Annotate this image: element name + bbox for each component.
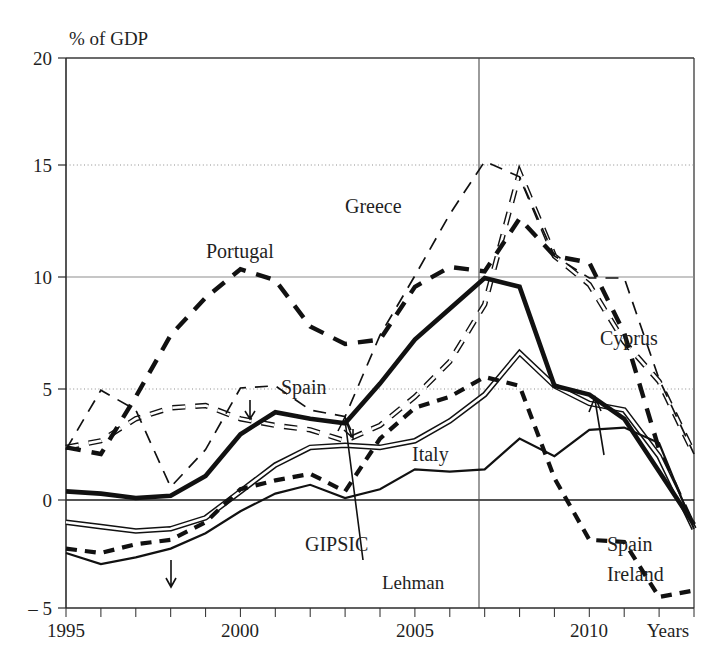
line-chart: 20 15 10 5 0 – 5 1995 2000 2005 2010 Yea… <box>0 0 708 666</box>
y-axis-title: % of GDP <box>69 28 148 49</box>
ytick-label-20: 20 <box>33 48 52 69</box>
series-label-gipsic: GIPSIC <box>305 533 368 555</box>
series-label-ireland: Ireland <box>607 563 664 585</box>
series-label-greece: Greece <box>345 195 402 217</box>
xtick-label-2000: 2000 <box>221 620 259 641</box>
series-label-italy: Italy <box>412 443 449 466</box>
ytick-label-0: 0 <box>43 490 53 511</box>
chart-figure: 20 15 10 5 0 – 5 1995 2000 2005 2010 Yea… <box>0 0 708 666</box>
ytick-label-minus5: – 5 <box>27 598 52 619</box>
xtick-label-1995: 1995 <box>47 620 85 641</box>
xtick-label-2005: 2005 <box>396 620 434 641</box>
ytick-label-10: 10 <box>33 267 52 288</box>
annotation-label-lehman: Lehman <box>382 572 445 593</box>
series-label-spain-right: Spain <box>607 533 653 556</box>
ytick-label-15: 15 <box>33 155 52 176</box>
xtick-label-2010: 2010 <box>570 620 608 641</box>
series-label-portugal: Portugal <box>206 240 274 263</box>
ytick-label-5: 5 <box>43 379 53 400</box>
series-label-cyprus: Cyprus <box>600 327 658 350</box>
x-axis-title: Years <box>647 620 689 641</box>
series-label-spain-mid: Spain <box>281 376 327 399</box>
